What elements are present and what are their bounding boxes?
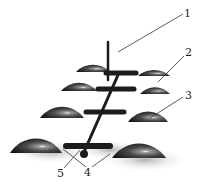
callout-label-1: 1 (184, 8, 191, 19)
diagram-svg (0, 0, 201, 188)
left-dome-row (10, 65, 110, 153)
callout-label-4: 4 (84, 167, 91, 178)
diagram-figure: 1 2 3 4 5 (0, 0, 201, 188)
leader-2 (158, 56, 184, 82)
dome-right-3 (128, 112, 168, 122)
dome-right-2 (140, 87, 170, 94)
dome-left-3 (40, 107, 84, 118)
callout-label-5: 5 (57, 168, 64, 179)
leader-3 (150, 97, 183, 118)
callout-label-3: 3 (185, 90, 192, 101)
leader-1 (118, 14, 183, 52)
dome-left-2 (61, 83, 97, 91)
rod-base (80, 150, 88, 158)
callout-label-2: 2 (185, 47, 192, 58)
